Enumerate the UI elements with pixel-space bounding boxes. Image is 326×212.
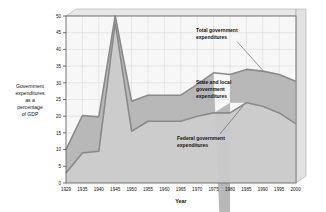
annotation-total-line: Total government [196, 27, 238, 33]
y-tick-label: 40 [56, 47, 62, 52]
y-axis-title-line: expenditures [15, 90, 45, 96]
x-tick-label: 1945 [110, 187, 121, 192]
chart-figure: 0 5 10 15 20 25 30 35 40 45 50 1929 1935… [0, 0, 326, 212]
x-tick-label: 1995 [274, 187, 285, 192]
x-tick-labels: 1929 1935 1940 1945 1950 1955 1960 1965 … [61, 187, 301, 192]
y-tick-label: 10 [56, 147, 62, 152]
y-axis-title-line: Government [16, 83, 45, 89]
y-tick-label: 5 [58, 164, 61, 169]
x-tick-label: 1980 [225, 187, 236, 192]
x-tick-label: 2000 [290, 187, 301, 192]
y-tick-label: 30 [56, 81, 62, 86]
annotation-federal-line: expenditures [177, 142, 208, 148]
y-axis-title: Government expenditures as a percentage … [15, 83, 45, 117]
annotation-state-line: expenditures [196, 93, 227, 99]
x-tick-label: 1955 [143, 187, 154, 192]
y-tick-label: 25 [56, 97, 62, 102]
x-tick-label: 1970 [192, 187, 203, 192]
annotation-federal-line: Federal government [177, 135, 225, 141]
x-tick-label: 1985 [241, 187, 252, 192]
chart-top-bevel [66, 9, 296, 16]
x-tick-label: 1965 [176, 187, 187, 192]
y-tick-label: 50 [56, 14, 62, 19]
y-tick-label: 0 [58, 181, 61, 186]
y-axis-title-line: percentage [17, 104, 43, 110]
area-chart: 0 5 10 15 20 25 30 35 40 45 50 1929 1935… [0, 0, 326, 212]
y-tick-label: 35 [56, 64, 62, 69]
y-tick-labels: 0 5 10 15 20 25 30 35 40 45 50 [56, 14, 62, 186]
y-tick-label: 45 [56, 30, 62, 35]
annotation-state-line: government [196, 86, 225, 92]
x-tick-label: 1960 [159, 187, 170, 192]
y-axis-title-line: as a [25, 97, 35, 103]
x-tick-label: 1990 [258, 187, 269, 192]
x-axis-title: Year [175, 198, 187, 204]
x-tick-label: 1940 [94, 187, 105, 192]
y-tick-label: 20 [56, 114, 62, 119]
y-axis-title-line: of GDP [22, 111, 39, 117]
x-tick-label: 1935 [77, 187, 88, 192]
annotation-state-line: State and local [196, 79, 232, 85]
annotation-total-line: expenditures [196, 34, 227, 40]
x-tick-label: 1975 [208, 187, 219, 192]
y-tick-label: 15 [56, 131, 62, 136]
chart-right-bevel [296, 9, 306, 183]
x-tick-label: 1950 [126, 187, 137, 192]
x-tick-label: 1929 [61, 187, 72, 192]
